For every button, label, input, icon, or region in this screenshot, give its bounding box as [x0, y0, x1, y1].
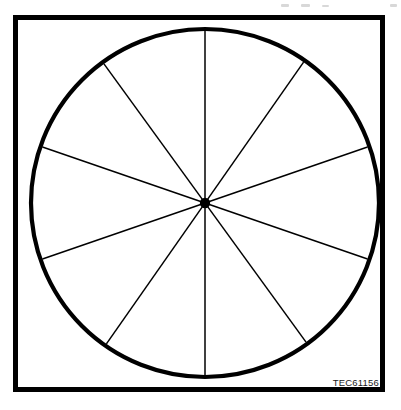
figure-root: TEC61156 [0, 0, 401, 410]
circle-sector-diagram [0, 0, 401, 410]
center-point-dot [200, 198, 210, 208]
figure-reference-code: TEC61156 [333, 377, 379, 388]
